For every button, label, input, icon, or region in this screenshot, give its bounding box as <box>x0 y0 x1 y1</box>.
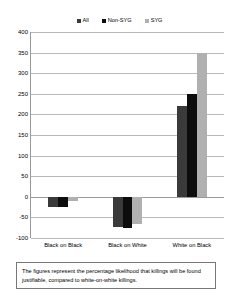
bar-non-syg <box>123 197 133 228</box>
y-axis-tick-label: -100 <box>16 235 28 241</box>
bar-non-syg <box>187 94 197 197</box>
legend-entry-syg: SYG <box>145 18 163 24</box>
legend-swatch-icon <box>102 19 106 23</box>
y-axis-tick-label: 300 <box>18 70 28 76</box>
chart-plot-area: 400350300250200150100500-50-100Black on … <box>31 32 224 238</box>
chart-plot-frame: 400350300250200150100500-50-100Black on … <box>31 32 224 238</box>
y-axis-tick-label: 350 <box>18 50 28 56</box>
bar-syg <box>68 197 78 201</box>
legend-label: Non-SYG <box>108 18 132 24</box>
y-axis-tick-label: -50 <box>19 214 28 220</box>
bar-all <box>177 106 187 197</box>
bar-non-syg <box>58 197 68 207</box>
y-axis-tick-label: 0 <box>25 194 28 200</box>
bar-group-bars <box>95 32 159 238</box>
x-axis-category-label: Black on White <box>95 243 159 249</box>
legend-label: All <box>83 18 89 24</box>
gridline--100 <box>31 238 224 239</box>
chart-legend: AllNon-SYGSYG <box>0 14 239 28</box>
bar-group: Black on Black <box>31 32 95 238</box>
y-axis-tick-label: 100 <box>18 153 28 159</box>
bar-group: White on Black <box>160 32 224 238</box>
x-axis-category-label: Black on Black <box>31 243 95 249</box>
bar-group-bars <box>31 32 95 238</box>
x-axis-category-label: White on Black <box>160 243 224 249</box>
bar-all <box>113 197 123 227</box>
bar-all <box>48 197 58 207</box>
legend-entry-non-syg: Non-SYG <box>102 18 132 24</box>
y-axis-tick-label: 250 <box>18 91 28 97</box>
legend-swatch-icon <box>77 19 81 23</box>
y-axis-tick-label: 400 <box>18 29 28 35</box>
y-axis-tick-label: 150 <box>18 132 28 138</box>
legend-label: SYG <box>151 18 163 24</box>
legend-swatch-icon <box>145 19 149 23</box>
bar-syg <box>132 197 142 224</box>
y-axis-tick-label: 200 <box>18 111 28 117</box>
legend-entry-all: All <box>77 18 89 24</box>
chart-caption-text: The figures represent the percentage lik… <box>22 267 210 284</box>
bar-syg <box>197 53 207 197</box>
bar-group: Black on White <box>95 32 159 238</box>
chart-caption-box: The figures represent the percentage lik… <box>16 262 216 289</box>
y-axis-tick-label: 50 <box>21 173 28 179</box>
bar-group-bars <box>160 32 224 238</box>
